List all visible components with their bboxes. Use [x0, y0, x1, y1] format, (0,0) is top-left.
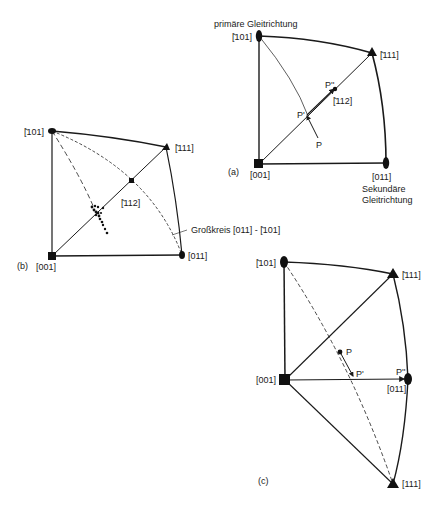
panel-c: [284, 262, 408, 484]
label-b-m101: [̄101]: [24, 127, 44, 137]
edge-001-011: [259, 163, 386, 164]
arc-m101-m111: [259, 36, 372, 53]
marker-c-001-square: [279, 374, 290, 385]
diagonal-b-001-m111: [52, 147, 166, 256]
label-b-011: [011]: [188, 251, 207, 261]
label-a-m112: [̄112]: [333, 96, 352, 106]
label-a-m101: [̄101]: [232, 32, 252, 42]
arc-c-011-111: [393, 379, 408, 484]
label-c-m111: [̄111]: [402, 270, 421, 280]
path-p-to-p1: [307, 116, 318, 138]
label-b-m112: [̄112]: [121, 198, 140, 208]
path-c-p1-to-p2: [285, 379, 404, 380]
label-c-P1: P': [356, 369, 364, 379]
label-c-P: P: [346, 347, 352, 357]
marker-011-ellipse: [383, 157, 389, 169]
great-circle-curve: [259, 36, 308, 116]
arc-b-m111-011: [166, 147, 182, 255]
great-circle-label: Großkreis [011] - [̄101]: [191, 225, 280, 235]
label-b-m111: [̄111]: [175, 143, 194, 153]
marker-c-m101-ellipse: [280, 256, 288, 268]
secondary-slip-label-2: Gleitrichtung: [362, 195, 413, 205]
label-a-m111: [̄111]: [380, 50, 399, 60]
marker-c-P-dot: [338, 350, 343, 355]
edge-b-001-011: [52, 255, 182, 256]
primary-slip-label: primäre Gleitrichtung: [214, 19, 298, 29]
label-a-P1: P': [297, 110, 305, 120]
panel-a-label: (a): [228, 167, 239, 177]
path-p1-to-p2: [307, 89, 334, 115]
diagonal-c-001-m111: [285, 274, 393, 380]
secondary-slip-label-1: Sekundäre: [362, 184, 406, 194]
label-a-P2: P'': [325, 80, 335, 90]
label-c-001: [001]: [256, 375, 276, 385]
label-a-001: [001]: [250, 170, 270, 180]
arc-c-m101-m111: [284, 262, 393, 274]
panel-c-label: (c): [258, 476, 269, 486]
dashed-b-m101-cluster: [52, 131, 94, 208]
marker-b-011-ellipse: [179, 251, 185, 259]
label-c-011: [011]: [387, 384, 406, 394]
great-circle-c-dashed: [284, 262, 393, 484]
marker-b-001-square: [48, 252, 56, 260]
label-c-P2: P'': [396, 367, 406, 377]
panel-b-label: (b): [17, 261, 28, 271]
marker-b-m112-square: [129, 178, 134, 183]
marker-001-square: [254, 159, 263, 168]
arc-b-m101-m111: [52, 131, 166, 147]
label-c-m101: [̄101]: [256, 258, 276, 268]
edge-c-001-m101: [284, 262, 285, 380]
marker-m101-ellipse: [256, 30, 262, 42]
marker-b-m101-ellipse: [48, 128, 56, 134]
stereographic-triangles-figure: primäre Gleitrichtung [̄101] [̄111] [̄11…: [0, 0, 443, 507]
experimental-track-b: [91, 205, 109, 235]
label-c-111: [111]: [402, 479, 421, 489]
panel-a: [259, 36, 386, 164]
arc-m111-011: [372, 53, 386, 163]
arc-c-m111-011: [393, 274, 408, 379]
label-a-P: P: [316, 140, 322, 150]
label-b-001: [001]: [36, 262, 56, 272]
edge-c-001-111: [285, 380, 393, 484]
label-a-011: [011]: [372, 172, 391, 182]
